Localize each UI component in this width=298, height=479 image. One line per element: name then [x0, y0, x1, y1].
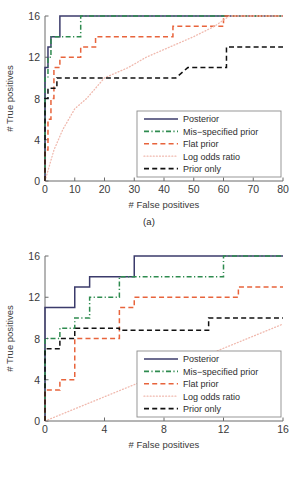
panel-a-caption: (a)	[0, 216, 298, 227]
legend-label-posterior: Posterior	[183, 114, 219, 124]
x-tick-label: 70	[247, 183, 259, 195]
legend-label-flat-prior: Flat prior	[183, 379, 219, 389]
chart-panel-b: 04812160481216# False positives# True po…	[0, 240, 298, 479]
roc-plot-a: 010203040506070800481216# False positive…	[0, 0, 298, 215]
x-axis-title: # False positives	[129, 199, 200, 210]
legend-label-posterior: Posterior	[183, 354, 219, 364]
figure-roc-curves: 010203040506070800481216# False positive…	[0, 0, 298, 479]
y-tick-label: 16	[28, 10, 40, 22]
x-tick-label: 16	[277, 423, 289, 435]
x-tick-label: 4	[102, 423, 108, 435]
x-tick-label: 0	[42, 423, 48, 435]
legend-label-mis-specified-prior: Mis−specified prior	[183, 367, 258, 377]
legend-label-prior-only: Prior only	[183, 164, 222, 174]
y-tick-label: 16	[28, 250, 40, 262]
legend-label-flat-prior: Flat prior	[183, 139, 219, 149]
y-tick-label: 8	[34, 333, 40, 345]
y-axis-title: # True positives	[4, 65, 15, 132]
x-tick-label: 60	[218, 183, 230, 195]
y-tick-label: 12	[28, 291, 40, 303]
x-tick-label: 12	[218, 423, 230, 435]
y-tick-label: 8	[34, 93, 40, 105]
roc-plot-b: 04812160481216# False positives# True po…	[0, 240, 298, 455]
y-tick-label: 0	[34, 175, 40, 187]
legend-label-log-odds-ratio: Log odds ratio	[183, 152, 240, 162]
chart-panel-a: 010203040506070800481216# False positive…	[0, 0, 298, 240]
y-tick-label: 12	[28, 51, 40, 63]
legend-label-mis-specified-prior: Mis−specified prior	[183, 127, 258, 137]
y-tick-label: 4	[34, 134, 40, 146]
x-tick-label: 50	[188, 183, 200, 195]
legend-label-log-odds-ratio: Log odds ratio	[183, 392, 240, 402]
x-tick-label: 10	[69, 183, 81, 195]
x-tick-label: 8	[161, 423, 167, 435]
y-tick-label: 4	[34, 374, 40, 386]
y-tick-label: 0	[34, 415, 40, 427]
x-axis-title: # False positives	[129, 439, 200, 450]
x-tick-label: 40	[158, 183, 170, 195]
x-tick-label: 0	[42, 183, 48, 195]
x-tick-label: 20	[99, 183, 111, 195]
legend-label-prior-only: Prior only	[183, 404, 222, 414]
x-tick-label: 30	[128, 183, 140, 195]
x-tick-label: 80	[277, 183, 289, 195]
y-axis-title: # True positives	[4, 305, 15, 372]
